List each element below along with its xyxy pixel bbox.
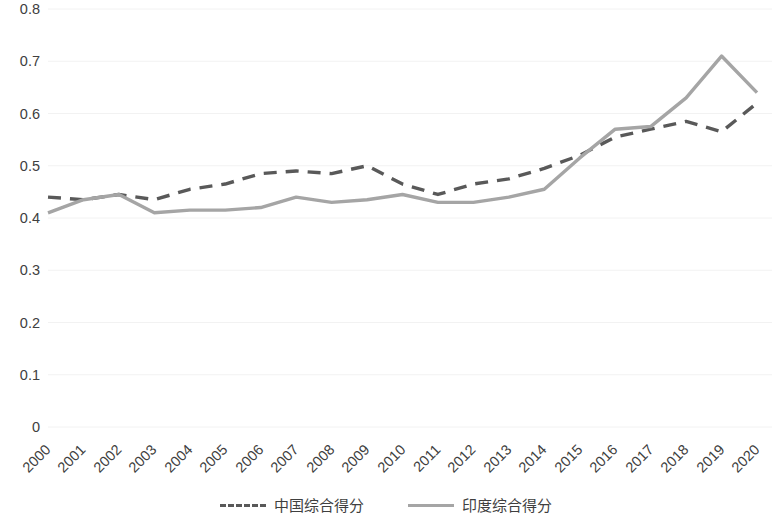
x-axis-tick-label: 2018 <box>648 442 691 485</box>
legend-item-china[interactable]: 中国综合得分 <box>220 498 364 513</box>
x-axis-tick-label: 2005 <box>188 442 231 485</box>
x-axis-tick-label: 2017 <box>613 442 656 485</box>
x-axis-tick-label: 2012 <box>436 442 479 485</box>
x-axis-tick-label: 2020 <box>719 442 762 485</box>
x-axis-tick-label: 2000 <box>10 442 53 485</box>
x-axis-tick-label: 2019 <box>684 442 727 485</box>
legend-swatch-icon <box>220 504 266 507</box>
line-chart: 0.80.70.60.50.40.30.20.10 20002001200220… <box>0 0 772 519</box>
x-axis-tick-label: 2011 <box>400 442 443 485</box>
x-axis-tick-label: 2004 <box>152 442 195 485</box>
x-axis-tick-label: 2013 <box>471 442 514 485</box>
x-axis-tick-label: 2002 <box>81 442 124 485</box>
x-axis-tick-label: 2009 <box>329 442 372 485</box>
x-axis-tick-label: 2015 <box>542 442 585 485</box>
x-axis-tick-label: 2006 <box>223 442 266 485</box>
x-axis-tick-label: 2008 <box>294 442 337 485</box>
x-axis: 2000200120022003200420052006200720082009… <box>0 0 772 519</box>
chart-legend: 中国综合得分印度综合得分 <box>0 492 772 518</box>
x-axis-tick-label: 2016 <box>578 442 621 485</box>
x-axis-tick-label: 2010 <box>365 442 408 485</box>
x-axis-tick-label: 2007 <box>258 442 301 485</box>
legend-label: 印度综合得分 <box>462 498 552 513</box>
legend-item-india[interactable]: 印度综合得分 <box>408 498 552 513</box>
legend-swatch-icon <box>408 504 454 507</box>
x-axis-tick-label: 2003 <box>117 442 160 485</box>
x-axis-tick-label: 2001 <box>46 442 89 485</box>
x-axis-tick-label: 2014 <box>507 442 550 485</box>
legend-label: 中国综合得分 <box>274 498 364 513</box>
